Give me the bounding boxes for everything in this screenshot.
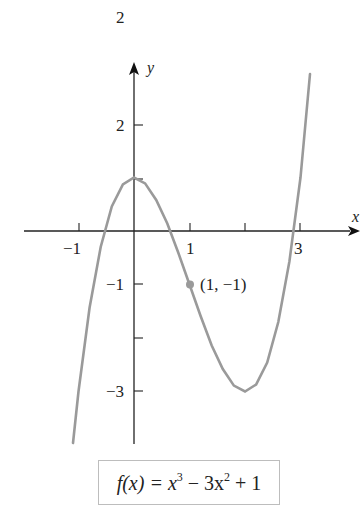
x-tick-label-neg1: −1	[63, 240, 81, 257]
y-tick-label-neg1: −1	[106, 276, 124, 293]
formula-lhs: f(x) = x	[117, 472, 177, 494]
formula-box: f(x) = x3 − 3x2 + 1	[98, 460, 280, 505]
y-tick-label-neg3: −3	[106, 383, 124, 400]
formula-rhs: + 1	[230, 472, 261, 494]
y-ticks	[134, 125, 143, 391]
formula-mid: − 3x	[183, 472, 224, 494]
x-ticks	[79, 223, 300, 231]
function-plot	[0, 0, 360, 522]
x-tick-label-3: 3	[294, 240, 303, 257]
formula: f(x) = x3 − 3x2 + 1	[117, 470, 262, 495]
y-tick-label-2: 2	[116, 117, 125, 134]
x-axis-label: x	[352, 209, 359, 225]
y-axis-label: y	[147, 60, 154, 76]
x-tick-label-1: 1	[186, 240, 195, 257]
point-annotation: (1, −1)	[200, 276, 246, 293]
point-marker	[186, 281, 194, 289]
